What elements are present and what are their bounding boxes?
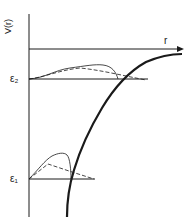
epsilon-1-label: ε₁ xyxy=(10,174,18,184)
potential-curve xyxy=(67,54,182,217)
v-axis-label: V(r) xyxy=(4,19,13,34)
r-axis-label: r xyxy=(164,36,167,46)
epsilon-1-wavefunction-dashed xyxy=(29,164,94,179)
potential-diagram xyxy=(0,0,192,219)
epsilon-2-label: ε₂ xyxy=(10,74,18,84)
epsilon-2-wavefunction-solid xyxy=(29,65,118,79)
r-axis-arrowhead xyxy=(177,46,184,52)
epsilon-1-wavefunction-solid xyxy=(29,153,71,179)
